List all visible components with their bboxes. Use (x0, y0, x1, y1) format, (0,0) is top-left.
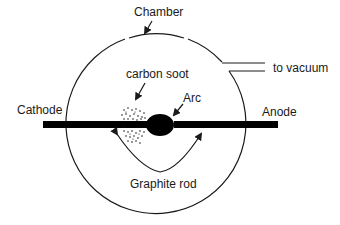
graphite-rod-label: Graphite rod (130, 178, 197, 190)
anode-rod (174, 121, 278, 128)
arc-arrow (174, 104, 183, 115)
graphite-rod-arrow (117, 134, 201, 172)
chamber-arrow (145, 21, 152, 33)
arc-label: Arc (183, 92, 201, 104)
cathode-rod (43, 121, 147, 128)
arc-ellipse (146, 114, 174, 136)
vacuum-port (222, 63, 265, 71)
cathode-label: Cathode (17, 104, 62, 116)
vacuum-label: to vacuum (273, 62, 328, 74)
carbon-soot-arrow (136, 83, 145, 99)
chamber-label: Chamber (134, 6, 183, 18)
anode-label: Anode (262, 106, 297, 118)
carbon-soot-label: carbon soot (126, 68, 189, 80)
